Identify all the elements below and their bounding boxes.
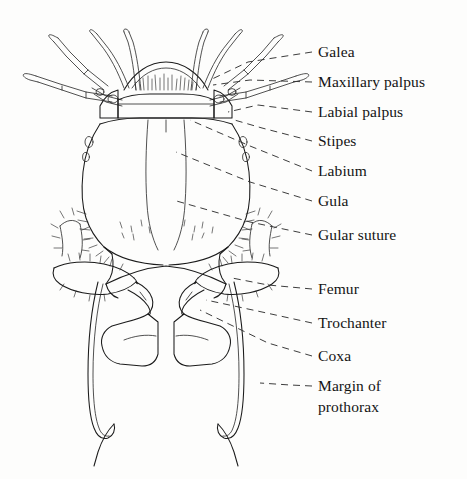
head-lateral-spines	[77, 211, 255, 263]
label-galea: Galea	[318, 43, 355, 60]
label-maxillary-palpus: Maxillary palpus	[318, 73, 425, 90]
mouthparts-band	[100, 62, 232, 118]
label-labium: Labium	[318, 162, 367, 179]
head-margin-tubercles	[83, 137, 250, 162]
left-leg	[51, 208, 158, 366]
setal-brush	[135, 74, 197, 90]
illustration	[23, 29, 309, 466]
leader-labial-palpus	[228, 105, 312, 112]
head-capsule	[82, 118, 250, 265]
prothorax-margin	[88, 282, 244, 466]
right-mouthpart-appendages	[191, 29, 309, 106]
label-gula: Gula	[318, 192, 349, 209]
label-margin-of-prothorax-line2: prothorax	[318, 398, 379, 415]
right-leg	[174, 208, 281, 366]
beetle-head-diagram: Galea Maxillary palpus Labial palpus Sti…	[0, 0, 467, 479]
label-labial-palpus: Labial palpus	[318, 103, 403, 120]
gula-region	[146, 120, 186, 250]
leader-margin-of-prothorax	[260, 383, 312, 386]
leader-labium	[190, 120, 312, 171]
label-femur: Femur	[318, 280, 360, 297]
label-trochanter: Trochanter	[318, 314, 387, 331]
leader-trochanter	[206, 300, 312, 323]
labels: Galea Maxillary palpus Labial palpus Sti…	[318, 43, 425, 415]
occipital-margin	[106, 254, 226, 298]
leader-coxa	[200, 310, 312, 356]
label-gular-suture: Gular suture	[318, 226, 396, 243]
label-stipes: Stipes	[318, 132, 357, 149]
label-coxa: Coxa	[318, 347, 351, 364]
left-mouthpart-appendages	[23, 29, 141, 106]
leader-gula	[176, 152, 312, 201]
leader-stipes	[231, 119, 312, 141]
label-margin-of-prothorax: Margin of	[318, 377, 382, 394]
